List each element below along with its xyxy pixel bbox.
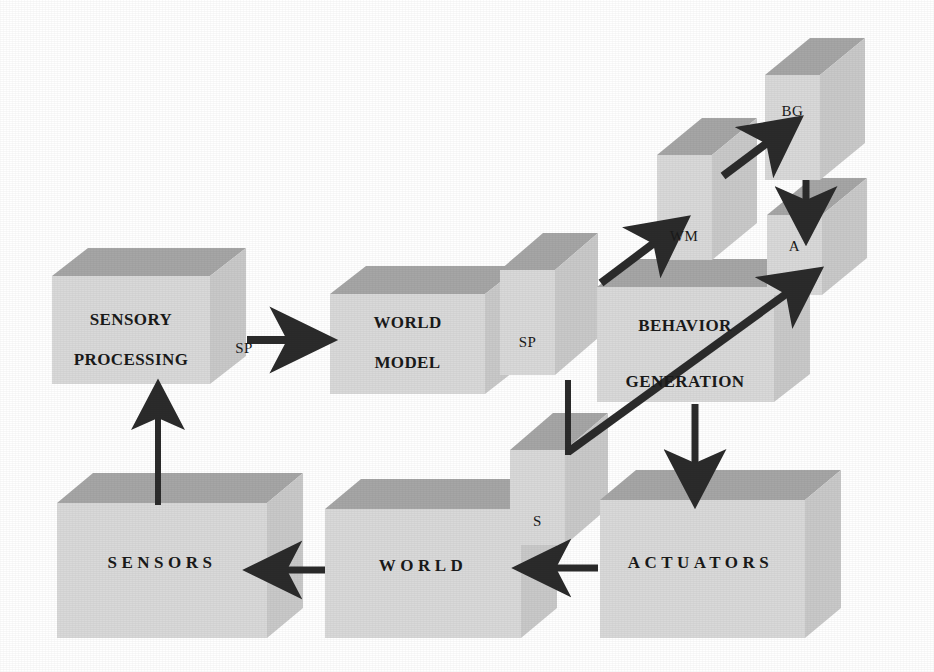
- node-sensors[interactable]: [57, 473, 303, 638]
- diagram-svg: [0, 0, 934, 672]
- node-a-small[interactable]: [767, 178, 867, 295]
- node-actuators[interactable]: [600, 470, 841, 638]
- diagram-canvas: SENSORY PROCESSING WORLD MODEL BEHAVIOR …: [0, 0, 934, 672]
- node-sp-small[interactable]: [500, 233, 598, 375]
- node-bg-small[interactable]: [765, 38, 865, 180]
- node-sensory-processing[interactable]: [52, 248, 246, 384]
- node-wm-small[interactable]: [657, 118, 757, 260]
- node-world-model[interactable]: [330, 266, 521, 394]
